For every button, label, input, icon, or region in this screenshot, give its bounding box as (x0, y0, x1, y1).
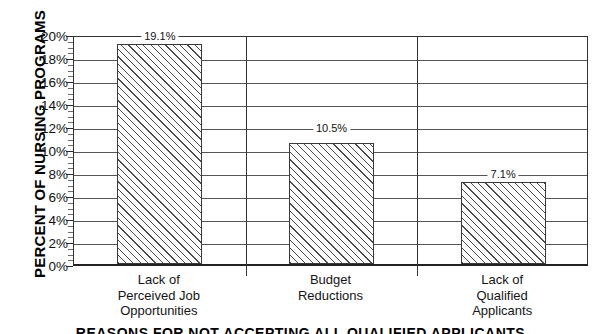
y-tick-label: 18% (28, 52, 68, 67)
y-tick-label: 0% (28, 259, 68, 274)
y-tick-label: 6% (28, 190, 68, 205)
category-label: Lack ofPerceived JobOpportunities (118, 272, 200, 319)
category-label-line: Lack of (472, 272, 532, 288)
bar (117, 44, 202, 264)
y-axis-major-tick (66, 151, 73, 152)
data-value-label: 19.1% (141, 31, 178, 42)
y-tick-label: 16% (28, 75, 68, 90)
bar (461, 182, 546, 264)
data-value-label: 7.1% (488, 169, 519, 180)
y-axis-major-tick (66, 197, 73, 198)
category-label-line: Reductions (298, 288, 363, 304)
category-label: BudgetReductions (298, 272, 363, 303)
category-label-line: Qualified (472, 288, 532, 304)
category-label-line: Budget (298, 272, 363, 288)
bar (289, 143, 374, 264)
y-tick-label: 20% (28, 29, 68, 44)
plot-area: 19.1%10.5%7.1% (73, 36, 588, 266)
category-label-line: Lack of (118, 272, 200, 288)
y-tick-label: 10% (28, 144, 68, 159)
y-tick-label: 12% (28, 121, 68, 136)
category-label-line: Perceived Job (118, 288, 200, 304)
y-axis-major-tick (66, 243, 73, 244)
category-label-line: Opportunities (118, 303, 200, 319)
y-axis-major-tick (66, 220, 73, 221)
y-axis-major-tick (66, 266, 73, 267)
y-axis-major-tick (66, 105, 73, 106)
x-axis-title: REASONS FOR NOT ACCEPTING ALL QUALIFIED … (0, 326, 601, 334)
category-separator (246, 37, 247, 276)
y-axis-major-tick (66, 128, 73, 129)
y-axis-major-tick (66, 82, 73, 83)
y-axis-tick-labels: 20%18%16%14%12%10%8%6%4%2%0% (28, 36, 68, 266)
category-label-line: Applicants (472, 303, 532, 319)
bar-chart-figure: PERCENT OF NURSING PROGRAMS 20%18%16%14%… (0, 0, 601, 334)
category-separator (417, 37, 418, 276)
y-axis-major-tick (66, 59, 73, 60)
y-axis-major-tick (66, 36, 73, 37)
y-tick-label: 2% (28, 236, 68, 251)
x-axis-category-labels: Lack ofPerceived JobOpportunitiesBudgetR… (73, 272, 588, 324)
y-axis-major-tick (66, 174, 73, 175)
y-tick-label: 4% (28, 213, 68, 228)
y-tick-label: 14% (28, 98, 68, 113)
category-label: Lack ofQualifiedApplicants (472, 272, 532, 319)
data-value-label: 10.5% (313, 123, 350, 134)
y-tick-label: 8% (28, 167, 68, 182)
